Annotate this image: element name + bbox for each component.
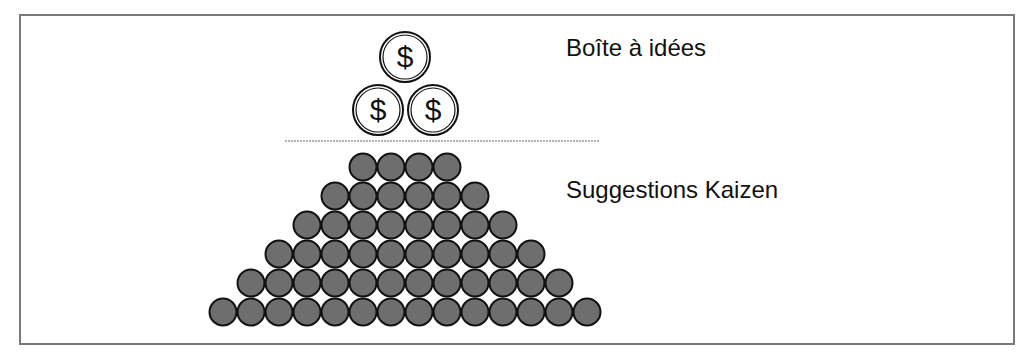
kaizen-coin-icon [322, 299, 349, 326]
kaizen-coin-icon [266, 241, 293, 268]
kaizen-coin-icon [322, 212, 349, 239]
kaizen-coin-icon [462, 270, 489, 297]
kaizen-coin-icon [322, 183, 349, 210]
kaizen-coin-icon [350, 183, 377, 210]
svg-text:$: $ [370, 93, 387, 126]
svg-text:$: $ [425, 93, 442, 126]
kaizen-coin-icon [294, 270, 321, 297]
dollar-coin-icon: $ [353, 85, 403, 135]
kaizen-coin-icon [546, 270, 573, 297]
kaizen-coin-icon [406, 241, 433, 268]
kaizen-coin-icon [462, 212, 489, 239]
kaizen-coin-icon [462, 299, 489, 326]
kaizen-coin-icon [434, 183, 461, 210]
kaizen-coin-icon [518, 270, 545, 297]
kaizen-coin-icon [406, 154, 433, 181]
kaizen-coin-icon [350, 212, 377, 239]
kaizen-coin-icon [546, 299, 573, 326]
dollar-coin-icon: $ [408, 85, 458, 135]
kaizen-coin-icon [210, 299, 237, 326]
kaizen-coin-icon [406, 270, 433, 297]
kaizen-coin-icon [406, 212, 433, 239]
diagram-canvas: $$$ [0, 0, 1033, 364]
kaizen-coin-icon [490, 299, 517, 326]
kaizen-coin-icon [406, 183, 433, 210]
kaizen-coin-icon [322, 241, 349, 268]
svg-text:$: $ [397, 40, 414, 73]
kaizen-coin-icon [378, 270, 405, 297]
kaizen-coin-pyramid [210, 154, 601, 326]
kaizen-coin-icon [378, 154, 405, 181]
kaizen-coin-icon [322, 270, 349, 297]
kaizen-coin-icon [490, 270, 517, 297]
kaizen-coin-icon [518, 241, 545, 268]
dollar-coins-group: $$$ [353, 32, 458, 135]
kaizen-coin-icon [378, 212, 405, 239]
label-idea-box: Boîte à idées [566, 34, 706, 62]
kaizen-coin-icon [378, 183, 405, 210]
kaizen-coin-icon [462, 183, 489, 210]
kaizen-coin-icon [462, 241, 489, 268]
kaizen-coin-icon [294, 212, 321, 239]
kaizen-coin-icon [406, 299, 433, 326]
kaizen-coin-icon [350, 154, 377, 181]
kaizen-coin-icon [434, 212, 461, 239]
kaizen-coin-icon [518, 299, 545, 326]
kaizen-coin-icon [350, 241, 377, 268]
kaizen-coin-icon [378, 299, 405, 326]
kaizen-coin-icon [434, 299, 461, 326]
kaizen-coin-icon [490, 212, 517, 239]
kaizen-coin-icon [238, 299, 265, 326]
kaizen-coin-icon [350, 270, 377, 297]
kaizen-coin-icon [350, 299, 377, 326]
kaizen-coin-icon [574, 299, 601, 326]
kaizen-coin-icon [294, 241, 321, 268]
kaizen-coin-icon [266, 270, 293, 297]
kaizen-coin-icon [266, 299, 293, 326]
kaizen-coin-icon [490, 241, 517, 268]
kaizen-coin-icon [378, 241, 405, 268]
kaizen-coin-icon [294, 299, 321, 326]
kaizen-coin-icon [238, 270, 265, 297]
label-kaizen-suggestions: Suggestions Kaizen [566, 176, 778, 204]
dollar-coin-icon: $ [380, 32, 430, 82]
kaizen-coin-icon [434, 154, 461, 181]
kaizen-coin-icon [434, 241, 461, 268]
kaizen-coin-icon [434, 270, 461, 297]
